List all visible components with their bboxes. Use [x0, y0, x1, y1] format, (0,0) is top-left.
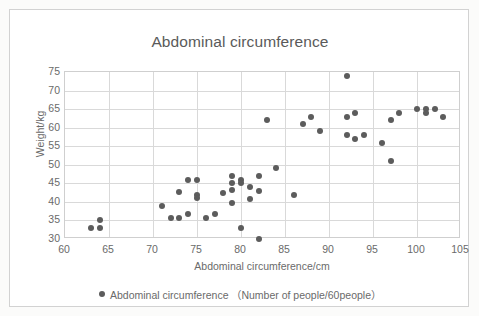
scatter-point: [317, 128, 323, 134]
y-tick-label: 40: [34, 196, 60, 206]
scatter-point: [432, 106, 438, 112]
x-tick-label: 100: [401, 243, 431, 255]
gridline-vertical: [417, 72, 418, 237]
gridline-vertical: [329, 72, 330, 237]
x-axis-label: Abdominal circumference/cm: [64, 260, 460, 272]
scatter-point: [414, 106, 420, 112]
gridline-vertical: [373, 72, 374, 237]
scatter-point: [194, 195, 200, 201]
gridline-horizontal: [65, 128, 459, 129]
scatter-point: [220, 190, 226, 196]
gridline-horizontal: [65, 183, 459, 184]
scatter-point: [440, 114, 446, 120]
x-tick-label: 105: [445, 243, 475, 255]
x-tick-label: 95: [357, 243, 387, 255]
screenshot-page: Abdominal circumference 3035404550556065…: [0, 0, 479, 316]
y-tick-label: 30: [34, 233, 60, 243]
y-tick-label: 35: [34, 214, 60, 224]
scatter-point: [256, 188, 262, 194]
scatter-point: [229, 173, 235, 179]
scatter-point: [238, 180, 244, 186]
scatter-point: [423, 110, 429, 116]
scatter-point: [300, 121, 306, 127]
x-tick-label: 70: [137, 243, 167, 255]
y-axis-label: Weight/kg: [34, 94, 46, 174]
legend-label: Abdominal circumference （Number of peopl…: [110, 289, 381, 301]
plot-area: [64, 71, 460, 238]
legend-marker-icon: [99, 291, 105, 297]
scatter-point: [388, 158, 394, 164]
scatter-point: [344, 132, 350, 138]
scatter-point: [273, 165, 279, 171]
scatter-point: [308, 114, 314, 120]
gridline-vertical: [285, 72, 286, 237]
chart-legend: Abdominal circumference （Number of peopl…: [10, 287, 470, 302]
x-tick-label: 65: [93, 243, 123, 255]
x-tick-label: 90: [313, 243, 343, 255]
scatter-point: [388, 117, 394, 123]
scatter-point: [352, 136, 358, 142]
y-tick-label: 45: [34, 177, 60, 187]
x-tick-label: 80: [225, 243, 255, 255]
scatter-point: [229, 187, 235, 193]
scatter-point: [352, 110, 358, 116]
x-axis-tick-labels: 6065707580859095100105: [64, 243, 460, 257]
scatter-point: [247, 184, 253, 190]
scatter-point: [229, 200, 235, 206]
chart-title: Abdominal circumference: [10, 33, 470, 51]
x-tick-label: 60: [49, 243, 79, 255]
scatter-point: [159, 203, 165, 209]
scatter-point: [212, 211, 218, 217]
scatter-point: [361, 132, 367, 138]
scatter-point: [229, 180, 235, 186]
scatter-point: [256, 236, 262, 242]
scatter-point: [203, 215, 209, 221]
x-tick-label: 75: [181, 243, 211, 255]
gridline-vertical: [197, 72, 198, 237]
scatter-point: [185, 211, 191, 217]
scatter-point: [379, 140, 385, 146]
scatter-point: [344, 73, 350, 79]
gridline-horizontal: [65, 91, 459, 92]
gridline-vertical: [241, 72, 242, 237]
scatter-point: [396, 110, 402, 116]
scatter-point: [88, 225, 94, 231]
scatter-point: [97, 225, 103, 231]
scatter-point: [176, 189, 182, 195]
gridline-horizontal: [65, 202, 459, 203]
scatter-point: [168, 215, 174, 221]
y-tick-label: 75: [34, 66, 60, 76]
scatter-point: [264, 117, 270, 123]
scatter-point: [97, 217, 103, 223]
gridline-horizontal: [65, 165, 459, 166]
scatter-point: [256, 173, 262, 179]
scatter-point: [238, 225, 244, 231]
chart-card: Abdominal circumference 3035404550556065…: [9, 9, 469, 307]
scatter-point: [344, 114, 350, 120]
scatter-point: [291, 192, 297, 198]
gridline-vertical: [109, 72, 110, 237]
x-tick-label: 85: [269, 243, 299, 255]
gridline-horizontal: [65, 146, 459, 147]
gridline-horizontal: [65, 220, 459, 221]
gridline-vertical: [153, 72, 154, 237]
